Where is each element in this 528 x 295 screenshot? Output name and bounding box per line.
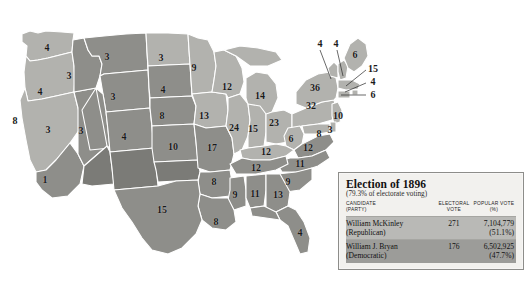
bottom-margin: [0, 280, 528, 295]
ev-label-indiana: 15: [248, 124, 258, 134]
ev-label-kentucky: 12: [261, 147, 271, 157]
column-header-electoral: ELECTORAL VOTE: [436, 201, 472, 216]
ev-label-new-hampshire: 4: [334, 39, 339, 49]
ev-label-rhode-island: 4: [371, 77, 376, 87]
column-header-popular-line2: (%): [490, 207, 498, 212]
ev-label-wyoming: 3: [111, 92, 116, 102]
ev-label-virginia: 12: [303, 143, 313, 153]
popular-vote-cell-bryan: 6,502,925 (47.7%): [472, 240, 516, 263]
popular-vote-cell-mckinley: 7,104,779 (51.1%): [472, 216, 516, 240]
popular-vote-pct-mckinley: (51.1%): [472, 228, 514, 237]
ev-label-utah: 3: [79, 126, 84, 136]
candidate-cell-bryan: William J. Bryan (Democratic): [346, 240, 436, 263]
state-colorado: [106, 108, 154, 152]
state-north-dakota: [146, 33, 190, 66]
ev-label-iowa: 13: [199, 111, 209, 121]
ev-label-wisconsin: 12: [222, 82, 232, 92]
column-header-popular: POPULAR VOTE (%): [472, 201, 516, 216]
state-massachusetts: [338, 80, 360, 90]
popular-vote-pct-bryan: (47.7%): [472, 251, 514, 260]
results-table: CANDIDATE (PARTY) ELECTORAL VOTE POPULAR…: [346, 201, 516, 263]
ev-label-massachusetts: 15: [368, 64, 378, 74]
candidate-cell-mckinley: William McKinley (Republican): [346, 216, 436, 240]
state-vermont: [328, 62, 338, 78]
ev-label-vermont: 4: [318, 39, 323, 49]
territory-new-mexico: [110, 148, 158, 190]
ev-label-nebraska: 8: [160, 111, 165, 121]
column-header-candidate-line2: (PARTY): [346, 207, 367, 212]
ev-label-florida: 4: [298, 228, 303, 238]
state-connecticut: [338, 91, 350, 98]
ev-label-idaho: 3: [67, 71, 72, 81]
ev-label-mississippi: 9: [233, 190, 238, 200]
ev-label-california: 8: [13, 116, 18, 126]
ev-label-new-jersey: 10: [333, 111, 343, 121]
ev-label-minnesota: 9: [192, 63, 197, 73]
ev-label-illinois: 24: [229, 123, 239, 133]
ev-label-georgia: 13: [273, 190, 283, 200]
ev-label-maryland: 8: [317, 129, 322, 139]
ev-label-arkansas: 8: [212, 177, 217, 187]
ev-label-montana: 3: [105, 52, 110, 62]
map-frame: .st { stroke: #ffffff; stroke-width: 1.1…: [0, 0, 528, 280]
ev-label-pennsylvania: 32: [306, 101, 316, 111]
column-header-electoral-line1: ELECTORAL: [438, 201, 469, 206]
ev-label-tennessee: 12: [251, 163, 261, 173]
ev-label-kansas: 10: [168, 142, 178, 152]
column-header-candidate-line1: CANDIDATE: [346, 201, 376, 206]
state-rhode-island: [352, 90, 358, 95]
ev-label-maine: 6: [353, 50, 358, 60]
legend-subtitle: (79.3% of electorate voting): [346, 191, 516, 199]
ev-label-missouri: 17: [207, 143, 217, 153]
ev-label-colorado: 4: [122, 132, 127, 142]
election-results-legend: Election of 1896 (79.3% of electorate vo…: [338, 172, 524, 270]
state-iowa: [192, 92, 228, 128]
candidate-name-mckinley: William McKinley: [346, 219, 436, 228]
ev-label-washington: 4: [45, 43, 50, 53]
ev-label-michigan: 14: [255, 91, 265, 101]
ev-label-louisiana: 8: [214, 217, 219, 227]
state-nebraska: [150, 96, 196, 126]
candidate-party-bryan: (Democratic): [346, 251, 436, 260]
territory-oklahoma: [154, 160, 200, 182]
column-header-electoral-line2: VOTE: [447, 207, 461, 212]
ev-label-new-york: 36: [310, 83, 320, 93]
ev-label-south-carolina: 9: [286, 177, 291, 187]
ev-label-north-dakota: 3: [159, 53, 164, 63]
table-row: William McKinley (Republican) 271 7,104,…: [346, 216, 516, 240]
popular-vote-count-mckinley: 7,104,779: [472, 219, 514, 228]
ev-label-connecticut: 6: [371, 90, 376, 100]
ev-label-south-dakota: 4: [161, 85, 166, 95]
table-row: William J. Bryan (Democratic) 176 6,502,…: [346, 240, 516, 263]
electoral-vote-bryan: 176: [436, 240, 472, 263]
table-header-row: CANDIDATE (PARTY) ELECTORAL VOTE POPULAR…: [346, 201, 516, 216]
ev-label-ohio: 23: [269, 118, 279, 128]
popular-vote-count-bryan: 6,502,925: [472, 242, 514, 251]
candidate-party-mckinley: (Republican): [346, 228, 436, 237]
column-header-popular-line1: POPULAR VOTE: [474, 201, 515, 206]
ev-label-texas: 15: [157, 205, 167, 215]
ev-label-oregon: 4: [38, 87, 43, 97]
state-texas: [114, 180, 202, 254]
election-map-screenshot: .st { stroke: #ffffff; stroke-width: 1.1…: [0, 0, 528, 295]
ev-label-nevada: 3: [46, 125, 51, 135]
legend-title: Election of 1896: [346, 178, 516, 190]
state-south-dakota: [148, 64, 192, 98]
ev-label-delaware: 3: [328, 125, 333, 135]
state-wyoming: [100, 70, 150, 112]
candidate-name-bryan: William J. Bryan: [346, 242, 436, 251]
electoral-vote-mckinley: 271: [436, 216, 472, 240]
ev-label-alabama: 11: [250, 189, 259, 199]
state-florida: [276, 206, 310, 254]
ev-label-california-split: 1: [43, 175, 48, 185]
ev-label-west-virginia: 6: [289, 134, 294, 144]
ev-label-north-carolina: 11: [295, 159, 304, 169]
column-header-candidate: CANDIDATE (PARTY): [346, 201, 436, 216]
